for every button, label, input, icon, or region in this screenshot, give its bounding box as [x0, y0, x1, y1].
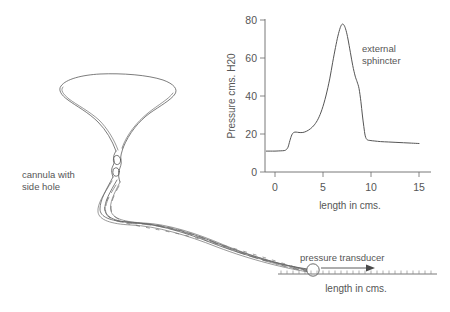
chart-xtick-label-0: 0: [272, 181, 278, 193]
transducer-label: pressure transducer: [300, 252, 384, 263]
chart-y-axis-title: Pressure cms. H20: [226, 53, 237, 138]
pressure-profile-chart: 0 20 40 60 80 0 5 10 15 length in cms. P…: [226, 14, 431, 211]
baseline-axis-label: length in cms.: [325, 283, 387, 294]
chart-ytick-label-0: 0: [251, 166, 257, 178]
catheter-texture: [105, 198, 305, 270]
bladder-inner-contour: [62, 87, 118, 150]
cannula-label-line1: cannula with: [22, 169, 75, 180]
chart-xtick-label-10: 10: [365, 181, 377, 193]
cannula-label-line2: side hole: [22, 181, 60, 192]
chart-xtick-label-15: 15: [413, 181, 425, 193]
annotation-external-sphincter-line1: external: [362, 43, 396, 54]
chart-ytick-label-20: 20: [245, 128, 257, 140]
chart-ytick-label-40: 40: [245, 90, 257, 102]
annotation-external-sphincter-line2: sphincter: [362, 55, 401, 66]
chart-y-ticks: [260, 20, 265, 172]
catheter-lumen-dashes-2: [111, 186, 310, 272]
bladder-neck-right: [119, 148, 123, 182]
chart-x-ticks: [275, 172, 419, 177]
chart-x-axis-title: length in cms.: [319, 200, 381, 211]
pressure-profile-curve: [266, 24, 419, 151]
chart-xtick-label-5: 5: [320, 181, 326, 193]
measurement-arrow-head: [366, 265, 375, 272]
catheter-line-3: [111, 182, 310, 271]
bladder-outline: [60, 74, 176, 151]
figure-canvas: cannula with side hole pressure transduc…: [0, 0, 450, 312]
urethral-pressure-figure: cannula with side hole pressure transduc…: [0, 0, 450, 312]
chart-ytick-label-80: 80: [245, 14, 257, 26]
chart-ytick-label-60: 60: [245, 52, 257, 64]
bladder-inner-contour-right: [122, 93, 173, 148]
catheter-line-4: [98, 181, 309, 272]
catheter-lumen-dashes: [106, 185, 309, 271]
